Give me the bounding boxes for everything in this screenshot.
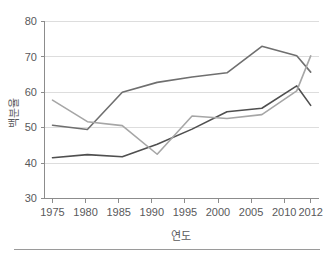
x-tick-label: 2012: [298, 206, 322, 218]
x-tick-labels: 1975 1980 1985 1990 1995 2000 2005 2010 …: [40, 206, 323, 218]
series-line-series-upper: [53, 46, 311, 129]
y-tick-label: 60: [25, 86, 37, 98]
x-tick-label: 1990: [140, 206, 164, 218]
y-tick-label: 50: [25, 121, 37, 133]
y-tick-label: 30: [25, 192, 37, 204]
y-tickmarks: [41, 22, 45, 199]
y-tick-label: 40: [25, 157, 37, 169]
line-chart: 80 70 60 50 40 30 1975 1980 1985 1990 19…: [0, 0, 334, 261]
y-tick-labels: 80 70 60 50 40 30: [25, 15, 37, 204]
y-axis-title: 백분율: [8, 98, 20, 128]
series-line-series-light: [53, 56, 311, 154]
chart-figure: 80 70 60 50 40 30 1975 1980 1985 1990 19…: [0, 0, 334, 261]
x-tick-label: 1980: [73, 206, 97, 218]
y-tick-label: 70: [25, 51, 37, 63]
x-tick-label: 2000: [206, 206, 230, 218]
footer-divider: [14, 249, 320, 250]
x-tickmarks: [53, 199, 311, 203]
data-series-group: [53, 46, 311, 158]
x-axis-title: 연도: [171, 230, 191, 242]
x-tick-label: 2010: [272, 206, 296, 218]
gridlines: [45, 22, 319, 164]
x-tick-label: 1995: [173, 206, 197, 218]
x-tick-label: 1985: [106, 206, 130, 218]
x-tick-label: 1975: [40, 206, 64, 218]
x-tick-label: 2005: [239, 206, 263, 218]
y-tick-label: 80: [25, 15, 37, 27]
